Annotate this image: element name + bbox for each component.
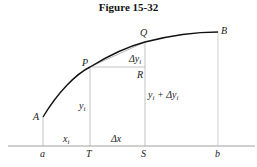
label-R: R bbox=[136, 69, 143, 80]
curve-AB bbox=[43, 32, 218, 117]
label-a: a bbox=[40, 148, 45, 159]
label-delta-x: Δx bbox=[110, 133, 122, 144]
label-S: S bbox=[141, 148, 146, 159]
label-Q: Q bbox=[140, 27, 148, 38]
label-yi: yi bbox=[78, 100, 85, 113]
label-B: B bbox=[221, 25, 227, 36]
label-yi-plus-delta-yi: yi + Δyi bbox=[147, 89, 178, 102]
label-b: b bbox=[215, 148, 220, 159]
label-delta-yi: Δyi bbox=[128, 53, 141, 66]
label-P: P bbox=[81, 57, 88, 68]
label-xi: xi bbox=[62, 133, 69, 146]
label-T: T bbox=[86, 148, 93, 159]
label-A: A bbox=[32, 111, 40, 122]
arc-length-diagram: A P Q B R a T S b xi Δx yi Δyi yi + Δyi bbox=[0, 0, 257, 167]
